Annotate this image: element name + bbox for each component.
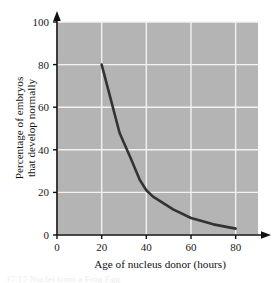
x-axis-arrowhead — [261, 231, 271, 239]
line-chart: 020406080100 020406080 Age of nucleus do… — [0, 0, 275, 283]
tick-label-x: 80 — [230, 241, 242, 253]
x-axis-tick-labels: 020406080 — [54, 241, 241, 253]
tick-label-y: 20 — [38, 186, 50, 198]
tick-label-y: 40 — [38, 144, 50, 156]
tick-label-x: 0 — [54, 241, 60, 253]
tick-label-y: 60 — [38, 101, 50, 113]
tick-label-x: 20 — [96, 241, 108, 253]
plot-background — [57, 22, 258, 235]
tick-label-x: 40 — [141, 241, 153, 253]
tick-label-y: 80 — [38, 59, 50, 71]
y-axis-arrowhead — [53, 11, 61, 21]
tick-label-y: 0 — [44, 229, 50, 241]
figure-container: 020406080100 020406080 Age of nucleus do… — [0, 0, 275, 283]
y-axis-title-line1: Percentage of embryos — [13, 77, 25, 180]
tick-label-y: 100 — [33, 16, 50, 28]
x-axis-title: Age of nucleus donor (hours) — [94, 258, 226, 271]
y-axis-title-line2: that develop normally — [25, 79, 37, 178]
partial-caption-text: 17.17 Nuclei from a Frog Egg — [6, 274, 206, 283]
tick-label-x: 60 — [186, 241, 198, 253]
